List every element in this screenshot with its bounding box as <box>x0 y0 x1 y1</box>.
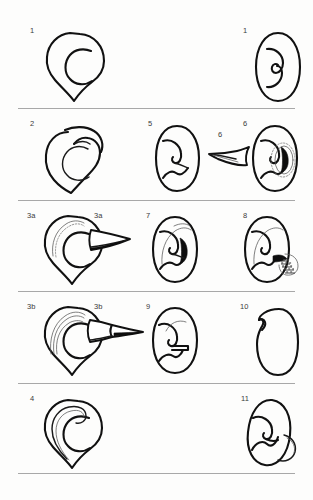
plate-row-4: 3b 3b 9 <box>0 292 313 383</box>
figure-label-1-left: 1 <box>30 27 34 35</box>
figure-label-4: 4 <box>30 395 34 403</box>
figure-label-3a-wedge: 3a <box>94 212 103 220</box>
row-separator-5 <box>18 473 295 474</box>
figure-ear-8 <box>240 214 304 286</box>
figure-label-6-ear: 6 <box>243 120 247 128</box>
figure-plate: 1 1 2 5 <box>0 0 313 500</box>
figure-ear-7 <box>148 214 202 286</box>
figure-ear-11 <box>240 397 304 469</box>
figure-wedge-3a <box>86 225 132 255</box>
figure-label-3a-left: 3a <box>27 212 36 220</box>
figure-wedge-3b <box>84 316 146 346</box>
figure-ear-6 <box>248 123 302 195</box>
figure-ear-2-left <box>34 123 112 195</box>
plate-row-1: 1 1 <box>0 0 313 108</box>
figure-label-1-right: 1 <box>243 27 247 35</box>
figure-ear-10 <box>250 306 302 378</box>
figure-ear-1-left <box>36 30 112 106</box>
plate-row-3: 3a 3a 7 <box>0 201 313 291</box>
figure-ear-4 <box>36 397 108 471</box>
figure-ear-1-right <box>250 30 306 106</box>
figure-label-3b-left: 3b <box>27 303 36 311</box>
figure-label-3b-wedge: 3b <box>94 303 103 311</box>
figure-ear-5 <box>152 123 204 195</box>
plate-row-5: 4 11 <box>0 384 313 474</box>
figure-wedge-6 <box>208 142 252 170</box>
plate-row-2: 2 5 6 6 <box>0 109 313 200</box>
figure-label-10: 10 <box>240 303 249 311</box>
figure-ear-9 <box>148 305 202 377</box>
figure-label-6-wedge: 6 <box>218 131 222 139</box>
